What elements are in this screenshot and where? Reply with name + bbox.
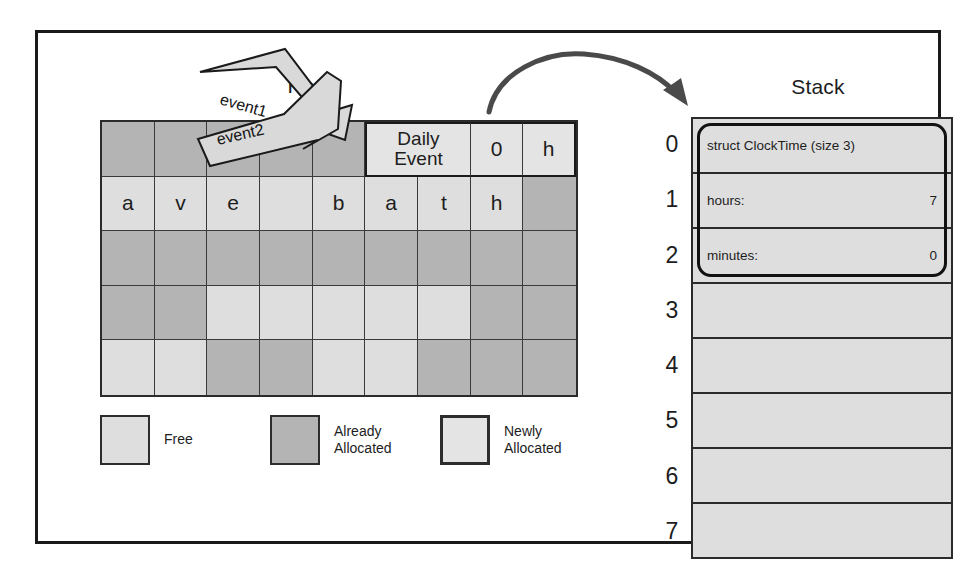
heap-cell	[260, 340, 313, 395]
heap-cell	[155, 340, 208, 395]
stack-slot-value: 7	[929, 193, 937, 208]
legend-item-newly-allocated: Newly Allocated	[440, 415, 562, 465]
heap-cell: h	[523, 122, 576, 177]
heap-cell	[365, 286, 418, 341]
stack-index: 0	[653, 117, 691, 172]
heap-memory-grid: Daily Event0havebath	[100, 120, 578, 397]
heap-cell	[260, 122, 313, 177]
legend-swatch-newly-allocated	[440, 415, 490, 465]
stack-index: 6	[653, 449, 691, 504]
heap-cell	[523, 177, 576, 232]
heap-cell	[155, 286, 208, 341]
heap-cell: v	[155, 177, 208, 232]
heap-cell: a	[102, 177, 155, 232]
heap-cell	[102, 231, 155, 286]
heap-cell	[260, 286, 313, 341]
heap-cell	[418, 340, 471, 395]
heap-cell	[155, 231, 208, 286]
heap-cell	[207, 231, 260, 286]
stack-index: 7	[653, 504, 691, 559]
stack-slot: hours:7	[693, 174, 951, 229]
heap-cell: b	[313, 177, 366, 232]
heap-cell	[207, 340, 260, 395]
heap-cell	[155, 122, 208, 177]
stack-slot-title: struct ClockTime (size 3)	[707, 138, 937, 153]
legend-swatch-already-allocated	[270, 415, 320, 465]
stack-slot	[693, 504, 951, 557]
heap-cell	[523, 340, 576, 395]
heap-cell: 0	[471, 122, 524, 177]
stack-slot-key: hours:	[707, 193, 929, 208]
heap-cell	[313, 340, 366, 395]
heap-cell	[365, 340, 418, 395]
stack-index: 1	[653, 172, 691, 227]
heap-cell: e	[207, 177, 260, 232]
heap-cell	[471, 231, 524, 286]
heap-cell	[102, 122, 155, 177]
heap-cell	[260, 231, 313, 286]
legend-label-newly-allocated: Newly Allocated	[504, 423, 562, 458]
heap-cell: t	[418, 177, 471, 232]
heap-cell	[418, 231, 471, 286]
stack-index: 5	[653, 393, 691, 448]
stack-slot: struct ClockTime (size 3)	[693, 119, 951, 174]
stack-region: 01234567 struct ClockTime (size 3)hours:…	[653, 117, 953, 559]
stack-index-column: 01234567	[653, 117, 691, 559]
heap-cell: h	[471, 177, 524, 232]
heap-cell	[207, 122, 260, 177]
stack-slot	[693, 339, 951, 394]
heap-cell	[313, 286, 366, 341]
heap-cell	[471, 340, 524, 395]
heap-cell	[418, 286, 471, 341]
heap-cell	[365, 231, 418, 286]
legend-item-already-allocated: Already Allocated	[270, 415, 392, 465]
legend-swatch-free	[100, 415, 150, 465]
stack-slot	[693, 394, 951, 449]
legend: Free Already Allocated Newly Allocated	[100, 415, 570, 477]
stack-slot	[693, 284, 951, 339]
stack-slot-value: 0	[929, 248, 937, 263]
stack-title: Stack	[738, 75, 898, 99]
heap-cell	[102, 340, 155, 395]
heap-cell	[523, 231, 576, 286]
stack-index: 2	[653, 228, 691, 283]
heap-cell	[313, 122, 366, 177]
heap-cell	[260, 177, 313, 232]
heap-cell	[102, 286, 155, 341]
diagram-frame: Heap Stack Daily Event0havebath Free Alr…	[35, 30, 941, 544]
heap-cell	[523, 286, 576, 341]
heap-cell	[313, 231, 366, 286]
heap-cell	[471, 286, 524, 341]
heap-cell: Daily Event	[365, 122, 470, 177]
stack-index: 4	[653, 338, 691, 393]
legend-item-free: Free	[100, 415, 193, 465]
stack-index: 3	[653, 283, 691, 338]
legend-label-already-allocated: Already Allocated	[334, 423, 392, 458]
stack-slot: minutes:0	[693, 229, 951, 284]
stack-slot-key: minutes:	[707, 248, 929, 263]
stack-slots: struct ClockTime (size 3)hours:7minutes:…	[691, 117, 953, 559]
stack-slot	[693, 449, 951, 504]
heap-cell: a	[365, 177, 418, 232]
heap-title: Heap	[233, 74, 393, 98]
legend-label-free: Free	[164, 431, 193, 449]
heap-cell	[207, 286, 260, 341]
